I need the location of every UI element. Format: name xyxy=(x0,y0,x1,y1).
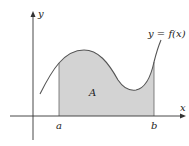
x-axis-label: x xyxy=(180,102,186,113)
y-axis-label: y xyxy=(37,8,44,19)
y-axis-arrow-icon xyxy=(31,11,36,17)
region-label: A xyxy=(88,87,96,98)
shaded-area-A xyxy=(59,50,154,116)
bound-label-a: a xyxy=(56,120,62,131)
x-axis-arrow-icon xyxy=(180,114,186,119)
area-under-curve-diagram: y x y = f(x) A a b xyxy=(0,0,189,146)
curve-label: y = f(x) xyxy=(147,28,186,39)
bound-label-b: b xyxy=(151,120,157,131)
